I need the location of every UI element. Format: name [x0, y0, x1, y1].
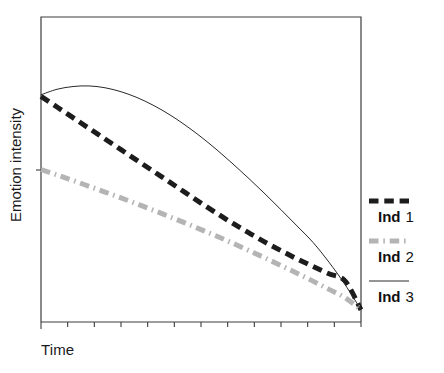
chart-figure: Emotion intensity Time Ind1Ind2Ind3 — [0, 0, 444, 373]
legend-label-3: Ind3 — [378, 288, 414, 305]
y-axis-title-wrap: Emotion intensity — [0, 0, 30, 330]
legend-label-text: Ind — [378, 208, 401, 225]
series-line-3 — [41, 86, 361, 310]
legend-label-index: 3 — [406, 288, 414, 305]
plot-area — [0, 0, 444, 373]
legend-label-text: Ind — [378, 248, 401, 265]
x-axis-title: Time — [41, 341, 74, 358]
chart-legend: Ind1Ind2Ind3 — [366, 190, 444, 310]
legend-entry-1[interactable]: Ind1 — [366, 190, 444, 230]
y-axis-title: Emotion intensity — [7, 108, 24, 222]
legend-label-index: 1 — [406, 208, 414, 225]
plot-frame — [41, 17, 361, 322]
legend-label-text: Ind — [378, 288, 401, 305]
legend-label-index: 2 — [406, 248, 414, 265]
data-series-group — [41, 86, 361, 310]
legend-label-2: Ind2 — [378, 248, 414, 265]
legend-sample-solid-thin-black — [368, 276, 410, 286]
plot-border — [41, 17, 361, 322]
legend-entry-3[interactable]: Ind3 — [366, 270, 444, 310]
series-line-2 — [41, 170, 361, 310]
series-line-1 — [41, 96, 361, 309]
legend-entry-2[interactable]: Ind2 — [366, 230, 444, 270]
legend-sample-dashdot-gray — [368, 236, 410, 246]
x-axis-ticks — [41, 322, 361, 329]
legend-sample-dashed-thick-black — [368, 196, 410, 206]
legend-label-1: Ind1 — [378, 208, 414, 225]
